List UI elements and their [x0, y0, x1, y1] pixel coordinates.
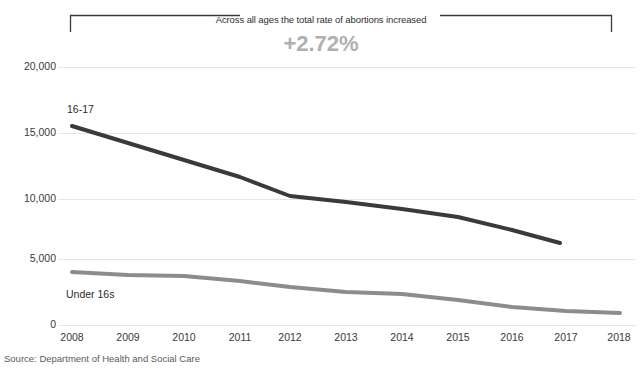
series-lines [0, 0, 642, 369]
x-axis-label-2018: 2018 [596, 331, 642, 343]
plot-area: 20,000 15,000 10,000 5,000 0 16-17 Under… [0, 0, 642, 369]
series-line-under-16s [72, 272, 620, 313]
series-label-16-17: 16-17 [67, 103, 94, 115]
x-axis-label-2011: 2011 [217, 331, 263, 343]
chart-figure: Across all ages the total rate of aborti… [0, 0, 642, 369]
source-note: Source: Department of Health and Social … [4, 353, 200, 365]
x-axis-label-2014: 2014 [379, 331, 425, 343]
x-axis-label-2012: 2012 [267, 331, 313, 343]
x-axis-label-2017: 2017 [543, 331, 589, 343]
x-axis-label-2009: 2009 [105, 331, 151, 343]
series-line-16-17 [72, 126, 560, 243]
series-label-under-16s: Under 16s [66, 288, 114, 300]
x-axis-label-2013: 2013 [323, 331, 369, 343]
x-axis-label-2016: 2016 [489, 331, 535, 343]
x-axis-label-2010: 2010 [161, 331, 207, 343]
x-axis-label-2015: 2015 [435, 331, 481, 343]
x-axis-label-2008: 2008 [49, 331, 95, 343]
